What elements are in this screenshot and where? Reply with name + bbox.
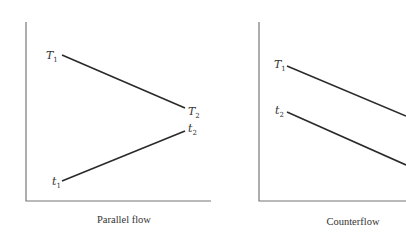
- parallel-flow-panel: T1 T2 t2 t1 Parallel flow: [26, 22, 211, 225]
- label-T1: T1: [274, 58, 286, 73]
- parallel-flow-caption: Parallel flow: [97, 214, 151, 225]
- counterflow-caption: Counterflow: [326, 216, 379, 227]
- label-t2: t2: [275, 104, 284, 119]
- hot-fluid-line: [287, 66, 406, 116]
- counterflow-panel: T1 t2 Counterflow: [259, 22, 406, 227]
- label-t2: t2: [188, 122, 197, 137]
- label-T2: T2: [188, 105, 200, 120]
- heat-exchanger-temperature-diagram: T1 T2 t2 t1 Parallel flow T1 t2 Counterf…: [0, 0, 406, 232]
- hot-fluid-line: [62, 55, 185, 108]
- cold-fluid-line: [287, 112, 406, 165]
- cold-fluid-line: [62, 131, 185, 181]
- label-T1: T1: [46, 49, 58, 64]
- label-t1: t1: [52, 175, 61, 190]
